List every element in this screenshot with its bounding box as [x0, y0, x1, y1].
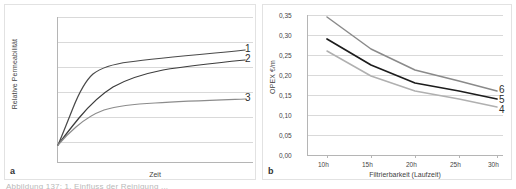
- panel-b-xtick-30h: 30h: [488, 161, 499, 168]
- panel-a-series-label-2: 2: [245, 53, 251, 64]
- panel-b-xtick-15h: 15h: [362, 161, 373, 168]
- panel-b-ytick-0_05: 0,05: [279, 132, 292, 139]
- panel-b-ytick-0_15: 0,15: [279, 92, 292, 99]
- panel-b-x-axis-label: Filtrierbarkeit (Laufzeit): [307, 171, 503, 178]
- panel-b-ytick-0_20: 0,20: [279, 72, 292, 79]
- panel-a-y-axis-label: Relative Permeabilität: [11, 39, 18, 109]
- panel-b-ytick-0_00: 0,00: [279, 152, 292, 159]
- panel-a-letter: a: [10, 166, 15, 176]
- panel-b-ytick-0_10: 0,10: [279, 112, 292, 119]
- panel-a-series-label-3: 3: [245, 92, 251, 103]
- chart-panel-a: Relative Permeabilität Zeit a 1 2 3: [4, 4, 256, 180]
- chart-panel-b: OPEX €/m 0,35 0,30 0,25 0,20 0,15 0,10 0…: [262, 4, 512, 180]
- figure-caption: Abbildung 137: 1. Einfluss der Reinigung…: [0, 182, 516, 189]
- panel-b-ytick-0_35: 0,35: [279, 12, 292, 19]
- panel-b-letter: b: [268, 166, 274, 176]
- figure-container: Relative Permeabilität Zeit a 1 2 3: [0, 0, 516, 189]
- panel-b-xtick-25h: 25h: [450, 161, 461, 168]
- panel-b-ytick-0_25: 0,25: [279, 52, 292, 59]
- panel-b-xtick-20h: 20h: [406, 161, 417, 168]
- panel-b-ytick-0_30: 0,30: [279, 32, 292, 39]
- panel-b-series-label-4: 4: [499, 104, 505, 115]
- panel-b-y-axis-label: OPEX €/m: [269, 60, 276, 94]
- panel-a-x-axis-label: Zeit: [57, 171, 253, 178]
- panel-a-plot: [5, 5, 255, 179]
- panel-b-plot: [263, 5, 511, 179]
- panel-b-xtick-10h: 10h: [318, 161, 329, 168]
